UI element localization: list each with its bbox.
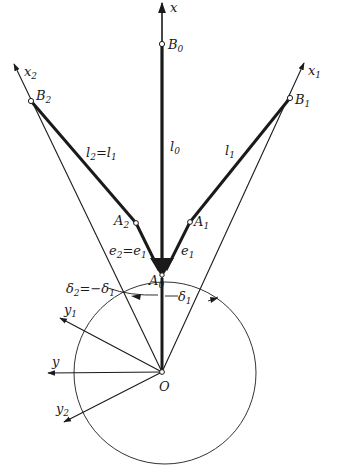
label-delta2-eq: δ2=−δ1 xyxy=(66,281,115,298)
link-l2 xyxy=(31,101,136,223)
point-o xyxy=(160,370,165,375)
label-x: x xyxy=(170,0,178,15)
label-b1: B1 xyxy=(294,92,310,109)
label-y1: y1 xyxy=(63,302,77,319)
label-o: O xyxy=(159,379,170,394)
label-b0: B0 xyxy=(167,37,184,54)
label-a2: A2 xyxy=(113,213,129,230)
point-b2 xyxy=(28,98,33,103)
label-b2: B2 xyxy=(35,88,52,105)
point-a0 xyxy=(160,273,164,277)
axis-y-line xyxy=(48,372,162,373)
angle-arrow-delta2 xyxy=(131,294,141,300)
label-y2: y2 xyxy=(55,401,69,418)
label-a1: A1 xyxy=(193,214,209,231)
axis-x2-line xyxy=(14,64,162,372)
label-l1: l1 xyxy=(225,143,235,160)
label-y: y xyxy=(51,354,60,369)
joint-wedge-a0 xyxy=(150,258,174,274)
axis-y1-line xyxy=(60,318,162,372)
label-x2: x2 xyxy=(24,64,37,81)
point-b1 xyxy=(287,95,292,100)
label-e2-eq-e1: e2=e1 xyxy=(109,243,147,260)
label-e1: e1 xyxy=(181,243,194,260)
linkage-diagram: x x2 x1 B0 B2 B1 l2=l1 l0 l1 A2 A1 e2=e1… xyxy=(0,0,337,475)
axis-y2-line xyxy=(64,372,162,422)
angle-arc-delta2 xyxy=(108,288,158,295)
point-a1 xyxy=(188,220,193,225)
label-l2-eq-l1: l2=l1 xyxy=(86,145,117,162)
point-b0 xyxy=(159,41,164,46)
label-l0: l0 xyxy=(170,139,180,156)
angle-arrow-delta1-head xyxy=(210,297,218,303)
label-x1: x1 xyxy=(308,63,321,80)
label-delta1: δ1 xyxy=(178,289,192,306)
point-a2 xyxy=(134,221,139,226)
